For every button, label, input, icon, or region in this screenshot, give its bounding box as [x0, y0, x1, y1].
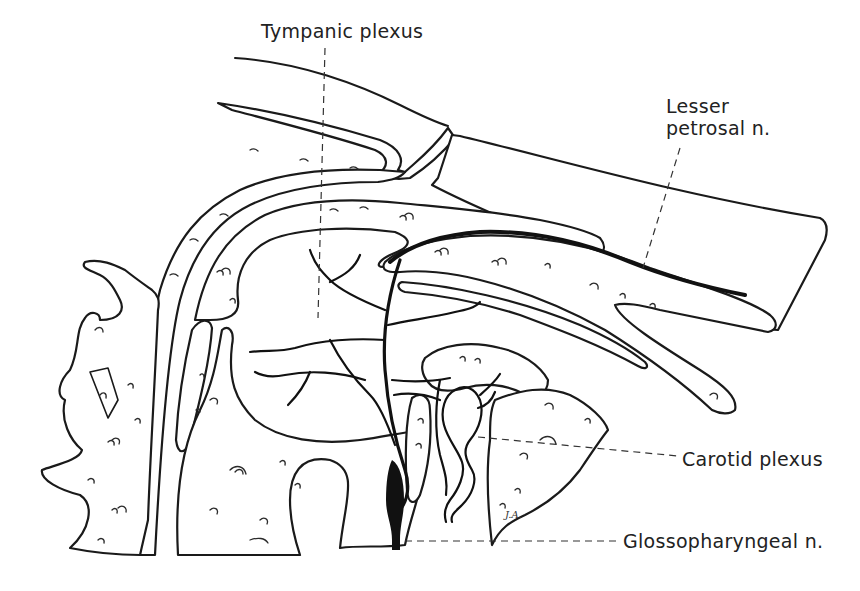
artist-signature: J.A. — [503, 509, 522, 520]
small-bone-fragment — [406, 395, 431, 502]
label-lesser-petrosal-line1: Lesser — [666, 95, 729, 117]
label-lesser-petrosal-line2: petrosal n. — [666, 117, 770, 139]
label-tympanic-plexus: Tympanic plexus — [261, 20, 423, 42]
left-mastoid-bone — [42, 261, 159, 555]
label-carotid-plexus: Carotid plexus — [682, 448, 823, 470]
anatomy-figure: J.A. — [0, 0, 860, 591]
mid-right-bone-lobe — [422, 344, 548, 396]
right-lower-bone — [488, 390, 608, 545]
label-glossopharyngeal-nerve: Glossopharyngeal n. — [623, 530, 823, 552]
